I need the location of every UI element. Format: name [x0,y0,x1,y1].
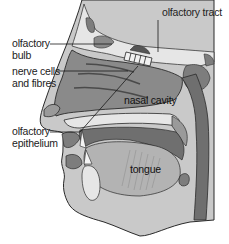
label-tongue: tongue [130,163,161,175]
label-olfactory-epithelium-line2: epithelium [12,137,58,149]
epiglottis [179,174,189,186]
label-nerve-cells-line2: and fibres [12,77,56,89]
label-olfactory-bulb-line1: olfactory [12,37,50,49]
label-nasal-cavity: nasal cavity [124,94,176,106]
label-nerve-cells-line1: nerve cells [12,65,60,77]
label-olfactory-epithelium-line1: olfactory [12,125,50,137]
label-olfactory-bulb-line2: bulb [12,49,31,61]
label-olfactory-tract: olfactory tract [162,6,222,18]
